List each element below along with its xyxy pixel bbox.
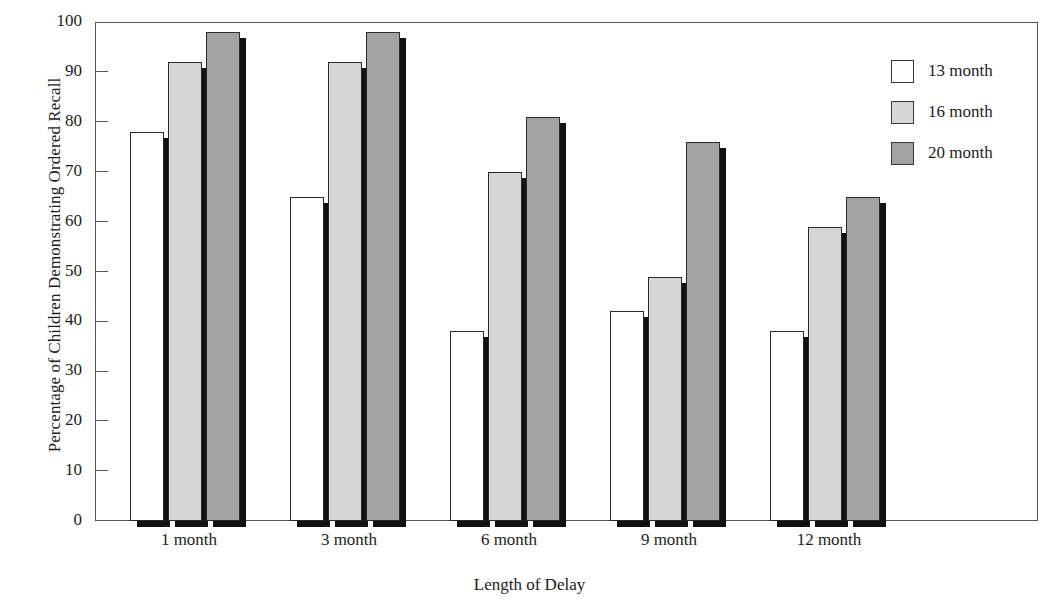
y-axis-tick — [95, 171, 108, 172]
legend-label: 20 month — [928, 143, 993, 163]
legend-item: 13 month — [891, 58, 993, 84]
legend-swatch — [891, 142, 914, 165]
legend-item: 20 month — [891, 140, 993, 166]
legend-label: 16 month — [928, 102, 993, 122]
y-axis-tick — [95, 121, 108, 122]
legend-swatch — [891, 60, 914, 83]
y-axis-tick-label: 30 — [22, 360, 82, 380]
y-axis-tick — [95, 321, 108, 322]
y-axis-tick — [95, 420, 108, 421]
y-axis-tick-label: 50 — [22, 261, 82, 281]
y-axis-tick — [95, 271, 108, 272]
legend-label: 13 month — [928, 61, 993, 81]
y-axis-tick-label: 70 — [22, 161, 82, 181]
legend-swatch — [891, 101, 914, 124]
y-axis-tick-label: 60 — [22, 211, 82, 231]
y-axis-tick — [95, 71, 108, 72]
y-axis-tick — [95, 470, 108, 471]
y-axis-tick — [95, 520, 108, 521]
legend-item: 16 month — [891, 99, 993, 125]
y-axis-tick-label: 90 — [22, 61, 82, 81]
x-axis-tick-label: 9 month — [589, 530, 749, 550]
y-axis-tick-label: 10 — [22, 460, 82, 480]
y-axis-tick — [95, 221, 108, 222]
x-axis-tick-label: 3 month — [269, 530, 429, 550]
x-axis-title: Length of Delay — [0, 575, 1059, 595]
y-axis-tick-label: 100 — [22, 11, 82, 31]
y-axis-tick-label: 20 — [22, 410, 82, 430]
x-axis-tick-label: 1 month — [109, 530, 269, 550]
y-axis-tick-label: 80 — [22, 111, 82, 131]
y-axis-tick-label: 40 — [22, 310, 82, 330]
plot-area-frame — [95, 22, 1038, 521]
y-axis-tick-label: 0 — [22, 510, 82, 530]
y-axis-tick — [95, 371, 108, 372]
bar-chart: Percentage of Children Demonstrating Ord… — [0, 0, 1059, 608]
x-axis-tick-label: 12 month — [749, 530, 909, 550]
x-axis-tick-label: 6 month — [429, 530, 589, 550]
